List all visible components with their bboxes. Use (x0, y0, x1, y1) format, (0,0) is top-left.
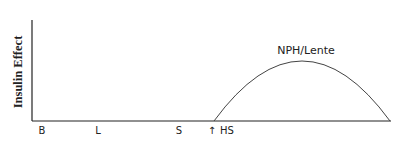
y-axis-label: Insulin Effect (11, 35, 25, 108)
tick-l: L (95, 125, 101, 136)
tick-hs: HS (220, 125, 234, 136)
tick-s: S (176, 125, 182, 136)
curve-label: NPH/Lente (277, 44, 335, 57)
injection-arrow-icon: ↑ (208, 125, 216, 136)
insulin-chart: Insulin Effect NPH/Lente B L S ↑ HS (0, 0, 405, 146)
nph-lente-curve (214, 61, 390, 121)
tick-b: B (39, 125, 46, 136)
